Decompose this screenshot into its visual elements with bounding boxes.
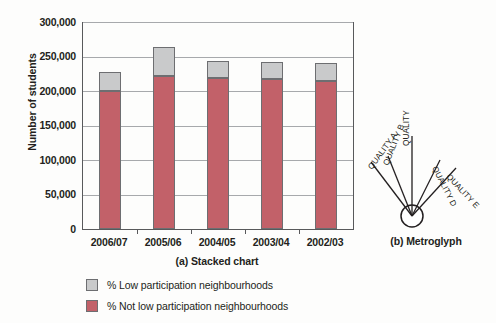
- legend-label: % Low participation neighbourhoods: [107, 279, 273, 291]
- panel-a-caption: (a) Stacked chart: [82, 255, 352, 267]
- bar-segment-not-low-participation[interactable]: [315, 81, 337, 229]
- metroglyph-label-c: QUALITY C: [402, 110, 411, 146]
- bar-segment-low-participation[interactable]: [315, 63, 337, 82]
- legend-swatch-red-icon: [86, 300, 98, 312]
- metroglyph-ray-b: [388, 156, 412, 216]
- bar-2006-07[interactable]: [99, 72, 121, 229]
- bar-segment-low-participation[interactable]: [99, 72, 121, 91]
- legend-item-low-participation: % Low participation neighbourhoods: [86, 274, 386, 295]
- bar-segment-not-low-participation[interactable]: [207, 78, 229, 229]
- x-tick-mark: [191, 229, 192, 234]
- y-tick-label: 200,000: [12, 86, 76, 97]
- figure-container: Number of students 300,000 250,000 200,0…: [0, 0, 496, 323]
- y-tick-label: 0: [12, 224, 76, 235]
- bar-segment-low-participation[interactable]: [261, 62, 283, 79]
- bar-2002-03[interactable]: [315, 63, 337, 229]
- bar-segment-not-low-participation[interactable]: [99, 91, 121, 229]
- legend-item-not-low-participation: % Not low participation neighbourhoods: [86, 295, 386, 316]
- stacked-chart-panel: Number of students 300,000 250,000 200,0…: [0, 0, 360, 270]
- x-tick-mark: [137, 229, 138, 234]
- gridline: [83, 22, 353, 23]
- x-tick-mark: [299, 229, 300, 234]
- y-tick-label: 250,000: [12, 51, 76, 62]
- bar-2004-05[interactable]: [207, 61, 229, 229]
- y-tick-label: 50,000: [12, 189, 76, 200]
- y-axis-tick-labels: 300,000 250,000 200,000 150,000 100,000 …: [12, 0, 76, 240]
- y-tick-label: 300,000: [12, 17, 76, 28]
- y-tick-label: 150,000: [12, 120, 76, 131]
- legend-swatch-grey-icon: [86, 279, 98, 291]
- metroglyph-panel: QUALITY A QUALITY B QUALITY C QUALITY D …: [356, 110, 496, 260]
- metroglyph-diagram: QUALITY A QUALITY B QUALITY C QUALITY D …: [356, 110, 496, 240]
- bar-segment-not-low-participation[interactable]: [153, 76, 175, 229]
- bar-segment-not-low-participation[interactable]: [261, 79, 283, 229]
- chart-legend: % Low participation neighbourhoods % Not…: [86, 274, 386, 316]
- x-tick-label: 2002/03: [290, 236, 360, 248]
- panel-b-caption: (b) Metroglyph: [356, 235, 496, 247]
- x-tick-mark: [245, 229, 246, 234]
- gridline: [83, 57, 353, 58]
- bar-2005-06[interactable]: [153, 47, 175, 229]
- bar-segment-low-participation[interactable]: [207, 61, 229, 78]
- bar-segment-low-participation[interactable]: [153, 47, 175, 76]
- plot-area: [82, 22, 354, 230]
- y-tick-label: 100,000: [12, 155, 76, 166]
- legend-label: % Not low participation neighbourhoods: [107, 300, 288, 312]
- metroglyph-ray-a: [371, 162, 412, 216]
- bar-2003-04[interactable]: [261, 62, 283, 229]
